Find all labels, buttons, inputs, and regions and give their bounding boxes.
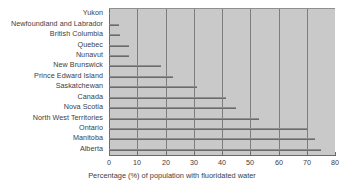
bar [109, 107, 236, 109]
x-axis-title: Percentage (%) of population with fluori… [0, 171, 344, 180]
plot-area [109, 8, 335, 156]
x-axis-tick-label: 50 [246, 158, 254, 167]
x-axis-tick [166, 152, 167, 156]
bar [109, 128, 307, 130]
category-label: North West Territories [33, 114, 103, 122]
x-axis-tick [109, 152, 110, 156]
x-axis-tick-label: 10 [133, 158, 141, 167]
x-axis-tick-label: 0 [107, 158, 111, 167]
bar [109, 55, 129, 57]
category-label: Alberta [80, 145, 103, 153]
bar [109, 65, 161, 67]
bar [109, 45, 129, 47]
x-axis-tick [279, 152, 280, 156]
bar [109, 13, 110, 15]
category-label: New Brunswick [53, 61, 103, 69]
bar [109, 149, 321, 151]
category-label: British Columbia [50, 30, 103, 38]
category-axis-labels: YukonNewfoundland and LabradorBritish Co… [0, 8, 106, 154]
x-axis-tick [307, 152, 308, 156]
category-label: Manitoba [73, 134, 103, 142]
category-label: Quebec [78, 41, 103, 49]
x-axis-tick-label: 70 [303, 158, 311, 167]
category-label: Yukon [83, 9, 103, 17]
category-label: Canada [78, 93, 103, 101]
bar [109, 86, 197, 88]
category-label: Newfoundland and Labrador [11, 20, 103, 28]
bar [109, 138, 315, 140]
x-axis-tick [137, 152, 138, 156]
x-axis-tick-label: 80 [331, 158, 339, 167]
x-axis-tick-label: 20 [162, 158, 170, 167]
category-label: Prince Edward Island [34, 72, 103, 80]
bar [109, 97, 226, 99]
bar-chart: YukonNewfoundland and LabradorBritish Co… [0, 0, 344, 186]
bar [109, 118, 259, 120]
category-label: Ontario [79, 124, 103, 132]
x-axis-tick [335, 152, 336, 156]
x-axis-tick-label: 40 [218, 158, 226, 167]
category-label: Saskatchewan [56, 82, 103, 90]
x-axis-tick [222, 152, 223, 156]
bar [109, 34, 120, 36]
category-label: Nova Scotia [64, 103, 103, 111]
x-axis-tick [250, 152, 251, 156]
bar [109, 24, 119, 26]
bars [109, 9, 335, 155]
x-axis-tick [194, 152, 195, 156]
x-axis-tick-label: 60 [275, 158, 283, 167]
category-label: Nunavut [76, 51, 103, 59]
x-axis-tick-label: 30 [190, 158, 198, 167]
bar [109, 76, 173, 78]
